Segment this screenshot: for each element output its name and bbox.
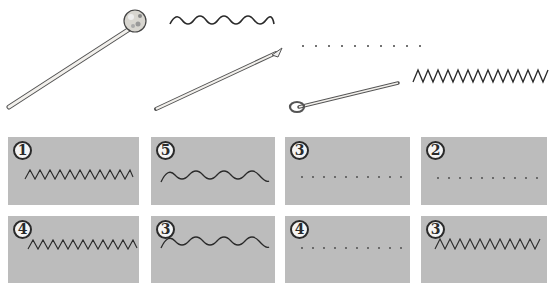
pattern-card[interactable]: 4 <box>8 216 139 283</box>
zigzag-pattern-icon <box>412 68 552 84</box>
pattern-card[interactable]: 3 <box>421 216 547 283</box>
pattern-card[interactable]: 1 <box>8 137 139 205</box>
dots-pattern-icon <box>421 137 547 205</box>
pattern-card[interactable]: 3 <box>285 137 410 205</box>
pattern-card[interactable]: 4 <box>285 216 410 283</box>
dots-pattern-icon <box>300 42 430 50</box>
mallet-icon <box>0 0 160 120</box>
thin-stick-icon <box>150 45 290 115</box>
dots-pattern-icon <box>285 137 410 205</box>
zigzag-pattern-icon <box>421 216 547 283</box>
pattern-card[interactable]: 3 <box>151 216 275 283</box>
loop-wire-icon <box>285 75 405 115</box>
pattern-card[interactable]: 5 <box>151 137 275 205</box>
wave-pattern-icon <box>151 137 275 205</box>
dots-pattern-icon <box>285 216 410 283</box>
zigzag-pattern-icon <box>8 137 139 205</box>
pattern-card[interactable]: 2 <box>421 137 547 205</box>
zigzag-pattern-icon <box>8 216 139 283</box>
wave-pattern-icon <box>151 216 275 283</box>
wave-pattern-icon <box>168 8 278 32</box>
